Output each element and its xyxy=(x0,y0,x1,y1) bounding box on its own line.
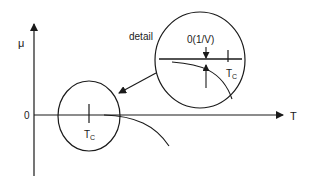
x-axis-label: T xyxy=(290,110,297,122)
mu-curve-detail xyxy=(172,62,232,99)
tc-label-main: TC xyxy=(84,129,95,141)
y-axis-label: μ xyxy=(18,37,24,49)
detail-pointer-arrow xyxy=(119,73,156,93)
diagram-canvas: μ 0 T TC detail TC 0(1/V) xyxy=(0,0,311,185)
mu-curve-main xyxy=(104,115,169,146)
detail-circle xyxy=(155,12,245,108)
origin-label: 0 xyxy=(24,110,30,121)
detail-caption: detail xyxy=(129,31,153,42)
tc-label-detail: TC xyxy=(226,68,237,80)
offset-label: 0(1/V) xyxy=(187,34,214,45)
